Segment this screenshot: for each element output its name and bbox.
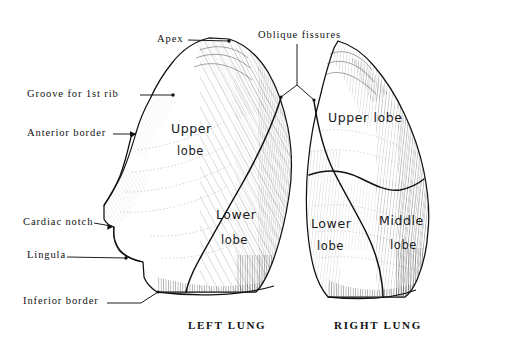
- callout-label-lingula: Lingula: [27, 249, 66, 260]
- callout-label-anterior-border: Anterior border: [27, 127, 106, 138]
- right-lung-caption: RIGHT LUNG: [334, 319, 422, 331]
- callout-label-inferior-border: Inferior border: [23, 295, 99, 306]
- callout-label-apex: Apex: [157, 33, 183, 44]
- left-lower-lobe-label-line2: lobe: [221, 233, 248, 247]
- right-middle-lobe-label-line2: lobe: [390, 238, 417, 252]
- left-upper-lobe-label-line2: lobe: [177, 144, 204, 158]
- callout-label-cardiac-notch: Cardiac notch: [23, 216, 93, 227]
- left-lung: [104, 30, 305, 300]
- right-middle-lobe-label-line1: Middle: [379, 213, 424, 228]
- right-lower-lobe-label-line1: Lower: [311, 216, 351, 231]
- leader-inferior-border: [107, 291, 160, 304]
- left-lung-caption: LEFT LUNG: [188, 319, 266, 331]
- callout-label-groove-1st-rib: Groove for 1st rib: [27, 88, 119, 99]
- right-upper-lobe-label: Upper lobe: [328, 110, 403, 125]
- right-lower-lobe-label-line2: lobe: [317, 239, 344, 253]
- right-lung: [306, 40, 436, 302]
- left-lower-lobe-label-line1: Lower: [216, 207, 256, 222]
- lung-anatomy-figure: Apex Groove for 1st rib Anterior border …: [0, 0, 520, 350]
- leader-lingula: [67, 256, 128, 259]
- callout-label-oblique-fissures: Oblique fissures: [258, 29, 341, 40]
- leader-oblique-fissures: [279, 44, 315, 102]
- left-upper-lobe-label-line1: Upper: [171, 121, 212, 136]
